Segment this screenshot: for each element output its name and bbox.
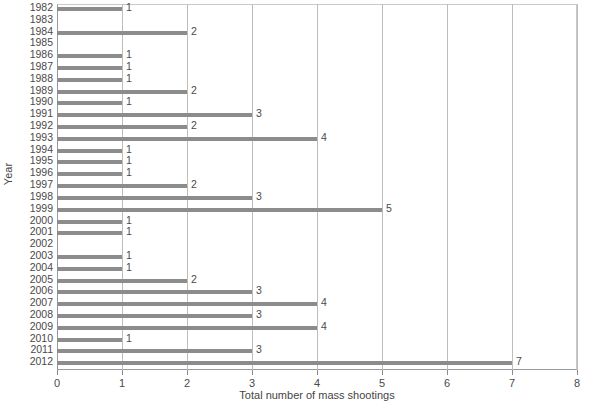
x-tick-1 <box>122 370 123 375</box>
bar-value-2008: 3 <box>256 308 262 320</box>
bar-row: 19821 <box>57 4 577 16</box>
bar-2006 <box>57 290 252 294</box>
bar-row: 19913 <box>57 110 577 122</box>
bar-row: 20052 <box>57 276 577 288</box>
bar-row: 20101 <box>57 335 577 347</box>
y-tick-label-1985: 1985 <box>30 36 53 48</box>
y-tick-label-1991: 1991 <box>30 107 53 119</box>
y-tick-label-1994: 1994 <box>30 143 53 155</box>
bar-row: 20083 <box>57 311 577 323</box>
bar-row: 19871 <box>57 63 577 75</box>
y-tick-label-2012: 2012 <box>30 355 53 367</box>
bar-row: 20041 <box>57 264 577 276</box>
bar-1984 <box>57 31 187 35</box>
bar-2007 <box>57 302 317 306</box>
bar-row: 19861 <box>57 51 577 63</box>
mass-shootings-bar-chart: Year 19821198319842198519861198711988119… <box>0 0 596 410</box>
bar-value-1988: 1 <box>126 72 132 84</box>
gridline-8 <box>577 4 578 370</box>
bar-value-2011: 3 <box>256 343 262 355</box>
bar-1987 <box>57 66 122 70</box>
bar-2004 <box>57 267 122 271</box>
x-tick-4 <box>317 370 318 375</box>
bar-2000 <box>57 220 122 224</box>
bar-value-2010: 1 <box>126 332 132 344</box>
bar-row: 19901 <box>57 98 577 110</box>
bar-row: 19941 <box>57 146 577 158</box>
bar-row: 2002 <box>57 240 577 252</box>
bar-1997 <box>57 184 187 188</box>
x-tick-label-4: 4 <box>302 377 332 389</box>
bar-row: 19972 <box>57 181 577 193</box>
y-tick-label-1993: 1993 <box>30 131 53 143</box>
bar-1999 <box>57 208 382 212</box>
y-tick-label-2008: 2008 <box>30 308 53 320</box>
bar-row: 19934 <box>57 134 577 146</box>
y-tick-label-2001: 2001 <box>30 225 53 237</box>
bar-1996 <box>57 172 122 176</box>
bar-row: 19951 <box>57 157 577 169</box>
x-tick-5 <box>382 370 383 375</box>
bar-row: 20001 <box>57 217 577 229</box>
x-tick-label-0: 0 <box>42 377 72 389</box>
bar-row: 20127 <box>57 358 577 370</box>
bar-row: 19881 <box>57 75 577 87</box>
bar-1990 <box>57 101 122 105</box>
bar-1995 <box>57 160 122 164</box>
x-tick-3 <box>252 370 253 375</box>
bar-1994 <box>57 149 122 153</box>
y-tick-label-2010: 2010 <box>30 332 53 344</box>
bar-1986 <box>57 54 122 58</box>
bar-value-2001: 1 <box>126 225 132 237</box>
bar-1993 <box>57 137 317 141</box>
bar-2008 <box>57 314 252 318</box>
bar-2012 <box>57 361 512 365</box>
bar-2001 <box>57 231 122 235</box>
bar-row: 1983 <box>57 16 577 28</box>
bar-value-2004: 1 <box>126 261 132 273</box>
bar-value-1999: 5 <box>386 202 392 214</box>
bar-2011 <box>57 349 252 353</box>
y-tick-label-2006: 2006 <box>30 284 53 296</box>
y-tick-label-2007: 2007 <box>30 296 53 308</box>
bar-value-2012: 7 <box>516 355 522 367</box>
bar-row: 19842 <box>57 28 577 40</box>
x-tick-label-3: 3 <box>237 377 267 389</box>
y-tick-label-2000: 2000 <box>30 214 53 226</box>
bar-row: 19922 <box>57 122 577 134</box>
bar-value-1994: 1 <box>126 143 132 155</box>
bar-value-1993: 4 <box>321 131 327 143</box>
bar-row: 1985 <box>57 39 577 51</box>
x-tick-6 <box>447 370 448 375</box>
y-tick-label-1983: 1983 <box>30 13 53 25</box>
y-tick-label-1989: 1989 <box>30 84 53 96</box>
bar-value-1997: 2 <box>191 178 197 190</box>
y-tick-label-1987: 1987 <box>30 60 53 72</box>
bar-value-1991: 3 <box>256 107 262 119</box>
y-tick-label-1998: 1998 <box>30 190 53 202</box>
bar-1998 <box>57 196 252 200</box>
x-tick-0 <box>57 370 58 375</box>
bar-value-2000: 1 <box>126 214 132 226</box>
bar-value-1982: 1 <box>126 1 132 13</box>
y-tick-label-1996: 1996 <box>30 166 53 178</box>
bar-value-1986: 1 <box>126 48 132 60</box>
y-tick-label-2011: 2011 <box>30 343 53 355</box>
bar-row: 19892 <box>57 87 577 99</box>
y-tick-label-1986: 1986 <box>30 48 53 60</box>
x-tick-label-6: 6 <box>432 377 462 389</box>
bar-2009 <box>57 326 317 330</box>
y-tick-label-2002: 2002 <box>30 237 53 249</box>
bar-2003 <box>57 255 122 259</box>
y-tick-label-1992: 1992 <box>30 119 53 131</box>
bar-row: 20113 <box>57 346 577 358</box>
x-tick-7 <box>512 370 513 375</box>
bar-value-1990: 1 <box>126 95 132 107</box>
bar-value-1995: 1 <box>126 154 132 166</box>
x-tick-label-5: 5 <box>367 377 397 389</box>
bar-row: 20031 <box>57 252 577 264</box>
bar-row: 19983 <box>57 193 577 205</box>
bar-value-2006: 3 <box>256 284 262 296</box>
bar-value-1992: 2 <box>191 119 197 131</box>
bar-row: 20074 <box>57 299 577 311</box>
